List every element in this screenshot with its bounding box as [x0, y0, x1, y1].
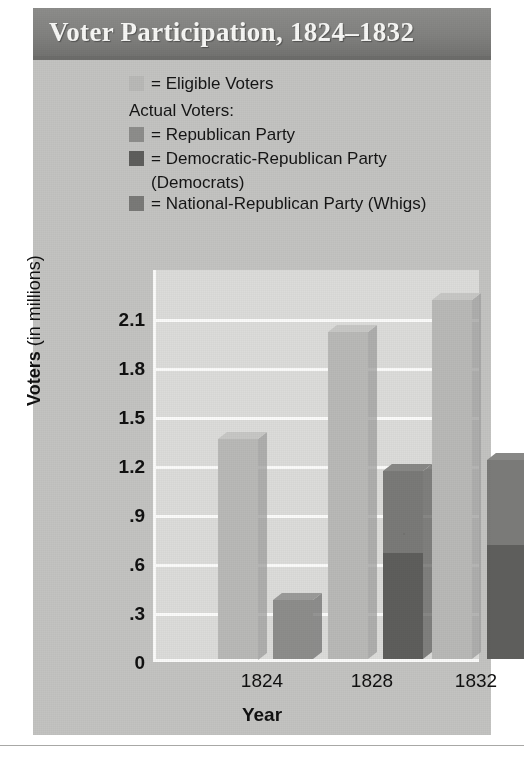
- bar-actual-1824: [273, 600, 313, 659]
- bar-actual-1832-segment-0: [487, 545, 524, 659]
- bar-eligible-1824-top-face: [218, 432, 267, 439]
- page-bottom-rule: [0, 745, 524, 746]
- y-axis-tick-1p8: 1.8: [119, 359, 145, 378]
- bar-eligible-1828-side-face: [368, 325, 377, 659]
- bar-eligible-1832-segment-0: [432, 300, 472, 659]
- gridline: [156, 417, 479, 420]
- paper-speck: [403, 533, 405, 535]
- bar-eligible-1832: [432, 300, 472, 659]
- legend-label-republican: = Republican Party: [151, 124, 295, 145]
- legend-heading-actual-voters: Actual Voters:: [129, 100, 479, 121]
- x-axis-tick-1828: 1828: [327, 670, 417, 692]
- legend-item-national-republican-party: = National-Republican Party (Whigs): [129, 193, 479, 214]
- y-axis-tick-0: 0: [134, 653, 145, 672]
- chart-title-banner: Voter Participation, 1824–1832: [33, 8, 491, 60]
- bar-eligible-1828-segment-0: [328, 332, 368, 659]
- bar-eligible-1824-segment-0: [218, 439, 258, 660]
- legend-swatch-eligible-icon: [129, 76, 144, 91]
- y-axis-tick-2p1: 2.1: [119, 310, 145, 329]
- legend-item-eligible-voters: = Eligible Voters: [129, 73, 479, 94]
- legend-label-eligible: = Eligible Voters: [151, 73, 273, 94]
- bar-actual-1832: [487, 460, 524, 659]
- bar-actual-1828-segment-1: [383, 471, 423, 553]
- figure-page: Voter Participation, 1824–1832 = Eligibl…: [0, 0, 524, 777]
- y-axis-tick-p9: .9: [129, 506, 145, 525]
- x-axis-tick-1832: 1832: [431, 670, 521, 692]
- y-axis-title-suffix: (in millions): [24, 255, 44, 351]
- chart-legend: = Eligible Voters Actual Voters: = Repub…: [129, 73, 479, 217]
- y-axis-tick-p6: .6: [129, 555, 145, 574]
- bar-actual-1832-top-face: [487, 453, 524, 460]
- legend-swatch-democratic-republican-icon: [129, 151, 144, 166]
- legend-item-democratic-republican-party: = Democratic-Republican Party: [129, 148, 479, 169]
- bar-actual-1828: [383, 471, 423, 659]
- bar-actual-1824-side-face: [313, 593, 322, 659]
- x-axis-title: Year: [33, 704, 491, 726]
- x-axis-tick-1824: 1824: [217, 670, 307, 692]
- legend-swatch-national-republican-icon: [129, 196, 144, 211]
- bar-actual-1832-segment-1: [487, 460, 524, 545]
- y-axis-tick-1p2: 1.2: [119, 457, 145, 476]
- y-axis-tick-p3: .3: [129, 604, 145, 623]
- page-title: Voter Participation, 1824–1832: [33, 17, 414, 48]
- gridline: [156, 368, 479, 371]
- legend-label-democratic-republican: = Democratic-Republican Party: [151, 148, 387, 169]
- y-axis-tick-labels: 0.3.6.91.21.51.82.1: [93, 270, 145, 662]
- gridline: [156, 319, 479, 322]
- bar-actual-1824-segment-0: [273, 600, 313, 659]
- bar-actual-1828-segment-0: [383, 553, 423, 659]
- legend-label-national-republican: = National-Republican Party (Whigs): [151, 193, 426, 214]
- bar-eligible-1824: [218, 439, 258, 660]
- y-axis-title: Voters (in millions): [24, 206, 45, 406]
- y-axis-tick-1p5: 1.5: [119, 408, 145, 427]
- bar-eligible-1832-side-face: [472, 293, 481, 659]
- plot-area: [153, 270, 479, 662]
- y-axis-title-prefix: Voters: [24, 351, 44, 406]
- legend-item-republican-party: = Republican Party: [129, 124, 479, 145]
- legend-label-democratic-republican-sub: (Democrats): [129, 172, 479, 193]
- bar-actual-1828-side-face: [423, 464, 432, 659]
- bar-eligible-1828: [328, 332, 368, 659]
- bar-eligible-1832-top-face: [432, 293, 481, 300]
- chart-figure-card: Voter Participation, 1824–1832 = Eligibl…: [33, 8, 491, 735]
- bar-eligible-1824-side-face: [258, 431, 267, 659]
- legend-swatch-republican-icon: [129, 127, 144, 142]
